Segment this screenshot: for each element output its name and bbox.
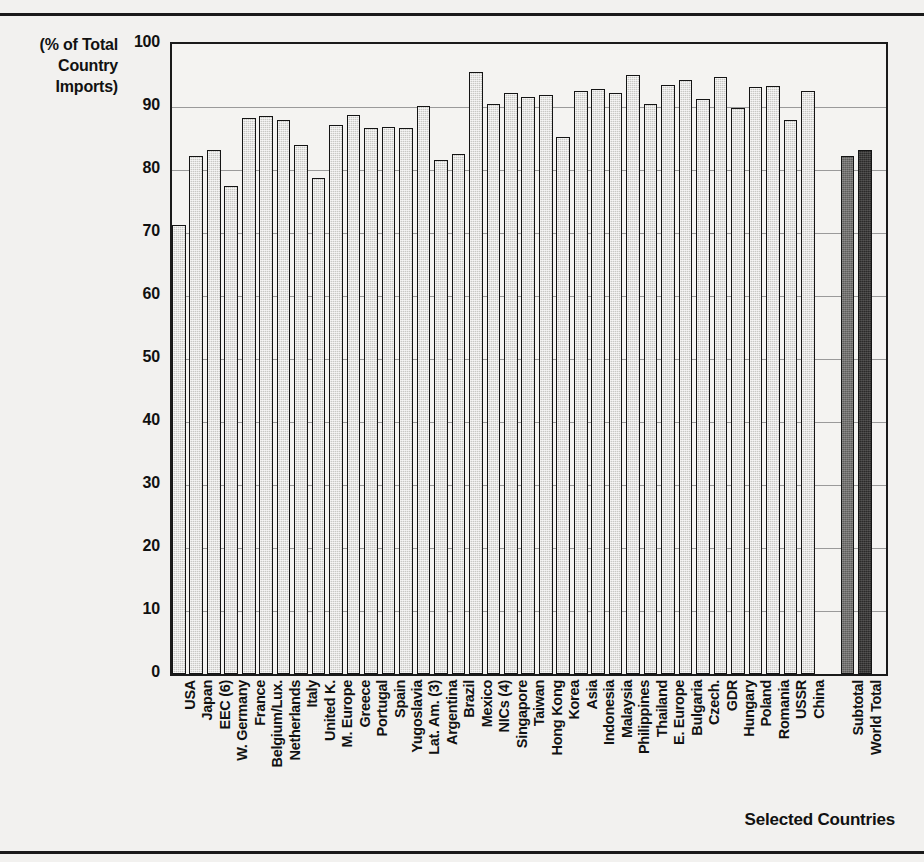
x-label-korea: Korea: [568, 680, 581, 720]
bar-usa: [172, 225, 186, 674]
y-tick-10: 10: [108, 600, 160, 618]
x-label-malaysia: Malaysia: [621, 680, 634, 738]
x-label-world-total: World Total: [870, 680, 883, 755]
x-label-eec-6: EEC (6): [219, 680, 232, 729]
bar-series: [172, 44, 886, 674]
x-label-mexico: Mexico: [481, 680, 494, 727]
bar-belgium-lux: [259, 116, 273, 674]
top-rule: [0, 13, 924, 16]
bar-portugal: [364, 128, 378, 674]
bar-poland: [749, 87, 763, 674]
x-label-belgium-lux: Belgium/Lux.: [271, 680, 284, 767]
y-axis-caption-line-2: Country: [0, 55, 118, 76]
y-tick-100: 100: [108, 33, 160, 51]
x-label-lat-am-3: Lat. Am. (3): [428, 680, 441, 755]
x-label-gdr: GDR: [726, 680, 739, 711]
bar-taiwan: [521, 97, 535, 674]
x-label-subtotal: Subtotal: [852, 680, 865, 736]
bar-argentina: [434, 160, 448, 674]
x-label-hong-kong: Hong Kong: [551, 680, 564, 755]
y-tick-50: 50: [108, 348, 160, 366]
bar-yugoslavia: [399, 128, 413, 674]
x-label-ussr: USSR: [795, 680, 808, 719]
bar-indonesia: [591, 89, 605, 674]
bar-bulgaria: [679, 80, 693, 674]
y-axis-caption-line-1: (% of Total: [0, 34, 118, 55]
bar-ussr: [784, 120, 798, 674]
bar-mexico: [469, 72, 483, 674]
bar-eec-6: [207, 150, 221, 674]
bar-hungary: [731, 108, 745, 674]
bar-subtotal: [841, 156, 855, 674]
x-label-united-k: United K.: [324, 680, 337, 741]
x-label-japan: Japan: [201, 680, 214, 720]
bar-philippines: [626, 75, 640, 674]
bar-gdr: [714, 77, 728, 674]
x-label-indonesia: Indonesia: [603, 680, 616, 745]
bar-m-europe: [329, 125, 343, 674]
x-axis-tick-labels: USAJapanEEC (6)W. GermanyFranceBelgium/L…: [172, 680, 886, 800]
bar-brazil: [452, 154, 466, 674]
x-label-bulgaria: Bulgaria: [691, 680, 704, 736]
x-label-argentina: Argentina: [446, 680, 459, 745]
bar-w-germany: [224, 186, 238, 674]
bar-greece: [347, 115, 361, 674]
bar-china: [801, 91, 815, 674]
x-label-czech: Czech.: [708, 680, 721, 725]
y-tick-0: 0: [108, 663, 160, 681]
x-label-singapore: Singapore: [516, 680, 529, 748]
bar-nics-4: [487, 104, 501, 674]
y-tick-90: 90: [108, 96, 160, 114]
bar-lat-am-3: [417, 106, 431, 674]
bar-singapore: [504, 93, 518, 674]
y-tick-60: 60: [108, 285, 160, 303]
x-label-asia: Asia: [586, 680, 599, 709]
x-label-spain: Spain: [394, 680, 407, 718]
bar-e-europe: [661, 85, 675, 674]
x-label-philippines: Philippines: [638, 680, 651, 754]
bar-korea: [556, 137, 570, 674]
x-label-italy: Italy: [306, 680, 319, 708]
x-label-france: France: [254, 680, 267, 726]
y-tick-30: 30: [108, 474, 160, 492]
x-label-romania: Romania: [778, 680, 791, 739]
bottom-rule: [0, 851, 924, 854]
bar-united-k: [312, 178, 326, 674]
y-axis-caption: (% of Total Country Imports): [0, 34, 118, 97]
x-label-nics-4: NICs (4): [498, 680, 511, 732]
bar-spain: [382, 127, 396, 674]
bar-malaysia: [609, 93, 623, 674]
y-axis-caption-line-3: Imports): [0, 76, 118, 97]
bar-czech: [696, 99, 710, 674]
x-label-poland: Poland: [760, 680, 773, 727]
y-tick-80: 80: [108, 159, 160, 177]
x-label-greece: Greece: [359, 680, 372, 727]
bar-japan: [189, 156, 203, 674]
bar-asia: [574, 91, 588, 674]
bar-thailand: [644, 104, 658, 674]
bar-world-total: [858, 150, 872, 674]
bar-france: [242, 118, 256, 674]
x-label-netherlands: Netherlands: [289, 680, 302, 761]
x-label-thailand: Thailand: [656, 680, 669, 737]
bar-romania: [766, 86, 780, 674]
x-label-w-germany: W. Germany: [236, 680, 249, 761]
x-label-usa: USA: [184, 680, 197, 710]
y-tick-70: 70: [108, 222, 160, 240]
y-tick-40: 40: [108, 411, 160, 429]
x-label-yugoslavia: Yugoslavia: [411, 680, 424, 753]
y-tick-20: 20: [108, 537, 160, 555]
bar-italy: [294, 145, 308, 674]
x-label-brazil: Brazil: [463, 680, 476, 718]
x-label-taiwan: Taiwan: [533, 680, 546, 726]
x-label-m-europe: M. Europe: [341, 680, 354, 747]
bar-netherlands: [277, 120, 291, 674]
x-label-portugal: Portugal: [376, 680, 389, 736]
x-label-e-europe: E. Europe: [673, 680, 686, 745]
bar-hong-kong: [539, 95, 553, 674]
x-label-hungary: Hungary: [743, 680, 756, 737]
x-label-china: China: [813, 680, 826, 719]
x-axis-title: Selected Countries: [0, 810, 895, 830]
